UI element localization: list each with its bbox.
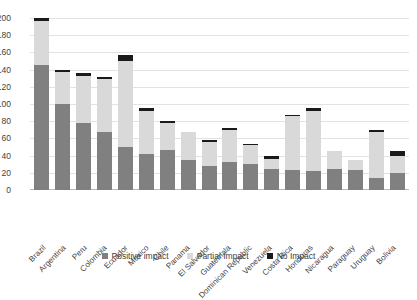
y-axis-tick-label: 200 bbox=[0, 14, 11, 23]
legend-swatch bbox=[187, 253, 193, 259]
y-axis-tick-label: 140 bbox=[0, 65, 11, 74]
bar-column[interactable] bbox=[55, 18, 70, 190]
bar-segment[interactable] bbox=[264, 169, 279, 191]
bar-segment[interactable] bbox=[348, 160, 363, 170]
bar-segment[interactable] bbox=[97, 79, 112, 131]
bar-segment[interactable] bbox=[55, 104, 70, 190]
bar-segment[interactable] bbox=[160, 150, 175, 190]
bar-column[interactable] bbox=[264, 18, 279, 190]
bar-column[interactable] bbox=[222, 18, 237, 190]
legend-label: Partial Impact bbox=[197, 251, 249, 261]
bar-column[interactable] bbox=[348, 18, 363, 190]
bar-segment[interactable] bbox=[285, 170, 300, 190]
bar-segment[interactable] bbox=[348, 170, 363, 190]
bar-segment[interactable] bbox=[327, 169, 342, 191]
bar-segment[interactable] bbox=[369, 132, 384, 178]
bar-segment[interactable] bbox=[76, 76, 91, 123]
legend-item[interactable]: Partial Impact bbox=[187, 251, 249, 261]
y-axis-tick-label: 60 bbox=[0, 134, 11, 143]
bar-column[interactable] bbox=[139, 18, 154, 190]
bar-segment[interactable] bbox=[118, 147, 133, 190]
y-axis-tick-label: 0 bbox=[0, 186, 11, 195]
bar-segment[interactable] bbox=[139, 154, 154, 190]
legend-label: No Impact bbox=[277, 251, 316, 261]
bar-column[interactable] bbox=[118, 18, 133, 190]
bar-segment[interactable] bbox=[264, 159, 279, 168]
y-axis-tick-label: 120 bbox=[0, 83, 11, 92]
bar-segment[interactable] bbox=[181, 160, 196, 190]
bar-column[interactable] bbox=[369, 18, 384, 190]
bar-segment[interactable] bbox=[306, 171, 321, 190]
bar-segment[interactable] bbox=[243, 164, 258, 190]
y-axis-tick-label: 80 bbox=[0, 117, 11, 126]
bar-column[interactable] bbox=[285, 18, 300, 190]
bar-segment[interactable] bbox=[181, 132, 196, 160]
bar-segment[interactable] bbox=[160, 123, 175, 151]
y-axis-tick-label: 180 bbox=[0, 31, 11, 40]
bar-segment[interactable] bbox=[369, 178, 384, 190]
bar-segment[interactable] bbox=[327, 151, 342, 168]
bar-column[interactable] bbox=[243, 18, 258, 190]
bar-column[interactable] bbox=[160, 18, 175, 190]
legend-swatch bbox=[267, 253, 273, 259]
bar-column[interactable] bbox=[34, 18, 49, 190]
y-axis-tick-label: 20 bbox=[0, 169, 11, 178]
bar-segment[interactable] bbox=[306, 111, 321, 171]
bar-column[interactable] bbox=[181, 18, 196, 190]
bar-segment[interactable] bbox=[222, 130, 237, 163]
bar-segment[interactable] bbox=[202, 166, 217, 190]
y-axis-tick-label: 100 bbox=[0, 100, 11, 109]
legend-label: Positive impact bbox=[112, 251, 169, 261]
plot-area bbox=[30, 18, 409, 190]
bar-segment[interactable] bbox=[243, 145, 258, 164]
legend-item[interactable]: Positive impact bbox=[102, 251, 169, 261]
bar-segment[interactable] bbox=[285, 116, 300, 170]
bar-segment[interactable] bbox=[97, 132, 112, 190]
bar-column[interactable] bbox=[202, 18, 217, 190]
bar-segment[interactable] bbox=[390, 156, 405, 172]
legend-item[interactable]: No Impact bbox=[267, 251, 316, 261]
bar-column[interactable] bbox=[390, 18, 405, 190]
bar-segment[interactable] bbox=[34, 65, 49, 190]
bar-segment[interactable] bbox=[222, 162, 237, 190]
bar-series-container bbox=[30, 18, 409, 190]
bar-segment[interactable] bbox=[118, 61, 133, 147]
bar-segment[interactable] bbox=[202, 142, 217, 166]
bar-column[interactable] bbox=[327, 18, 342, 190]
y-axis-tick-label: 160 bbox=[0, 48, 11, 57]
chart-legend: Positive impactPartial ImpactNo Impact bbox=[0, 251, 417, 261]
bar-segment[interactable] bbox=[34, 21, 49, 66]
bar-segment[interactable] bbox=[139, 111, 154, 154]
bar-column[interactable] bbox=[97, 18, 112, 190]
bar-segment[interactable] bbox=[76, 123, 91, 190]
bar-segment[interactable] bbox=[390, 173, 405, 190]
x-axis-labels: BrazilArgentinaPeruColombiaEcuadorMexico… bbox=[30, 190, 409, 242]
y-axis-tick-label: 40 bbox=[0, 151, 11, 160]
legend-swatch bbox=[102, 253, 108, 259]
bar-column[interactable] bbox=[76, 18, 91, 190]
bar-column[interactable] bbox=[306, 18, 321, 190]
bar-segment[interactable] bbox=[55, 72, 70, 104]
